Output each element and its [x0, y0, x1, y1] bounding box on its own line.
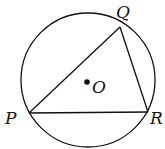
label-r: R	[149, 108, 163, 128]
center-point	[84, 79, 90, 85]
label-p: P	[4, 108, 17, 128]
segment-qr	[120, 27, 148, 112]
geometry-diagram: P Q R O	[0, 0, 165, 149]
segment-pr	[29, 112, 148, 113]
label-q: Q	[116, 2, 130, 22]
segment-pq	[29, 27, 120, 113]
label-o: O	[92, 77, 106, 97]
